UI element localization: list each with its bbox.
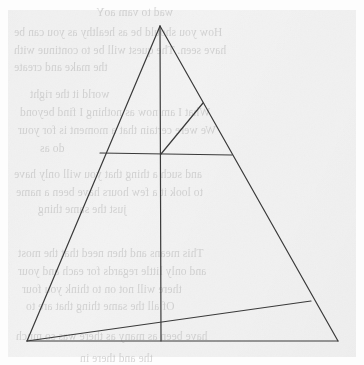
- triangle-left-side: [27, 26, 160, 341]
- horizontal-chord: [100, 153, 232, 155]
- geometric-figure: [0, 0, 364, 365]
- triangle-diagram-svg: [0, 0, 364, 365]
- cevian-bottomleft-to-right-side: [27, 301, 311, 341]
- vertical-median: [160, 26, 161, 341]
- scanned-page: wad to vam aoYHow you should be as healt…: [0, 0, 364, 365]
- triangle-right-side: [160, 26, 338, 341]
- segment-centroid-to-upper-right: [161, 103, 203, 154]
